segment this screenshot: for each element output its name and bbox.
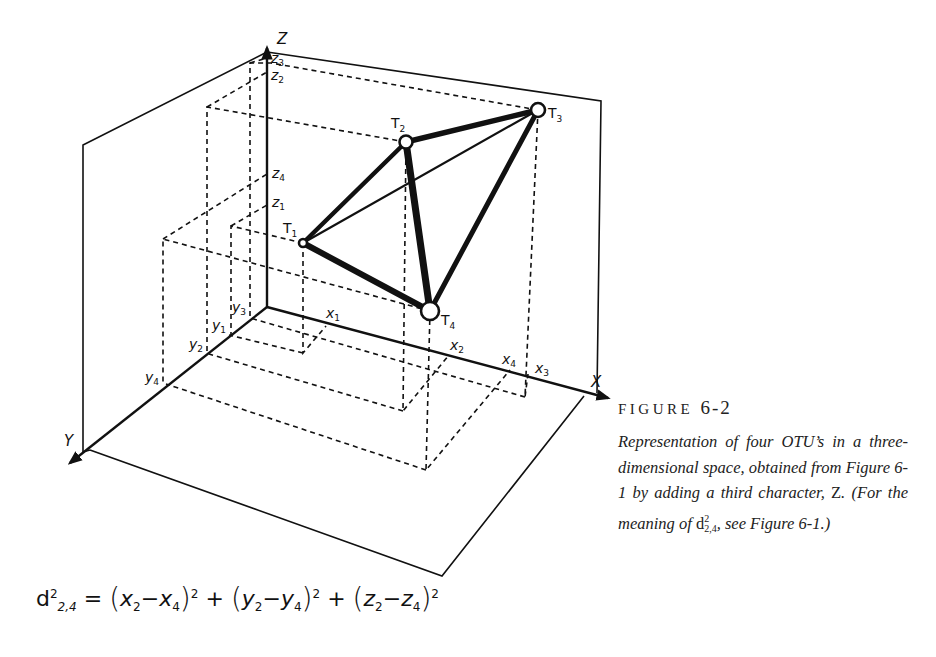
figure-description: Representation of four OTU’s in a three-… xyxy=(618,429,908,542)
distance-formula: d22,4 = (x2−x4)2 + (y2−y4)2 + (z2−z4)2 xyxy=(36,582,439,615)
formula-plus: + xyxy=(327,586,345,611)
formula-equals: = xyxy=(84,586,102,611)
axis-labels: Z X Y xyxy=(64,30,602,450)
z-ticks: z3 z2 z4 z1 xyxy=(270,50,285,212)
tick-y4: y4 xyxy=(144,369,159,387)
formula-term-z: (z2−z4)2 xyxy=(353,586,439,611)
formula-lhs: d22,4 xyxy=(36,586,77,611)
label-t3: T3 xyxy=(547,105,562,124)
node-t3 xyxy=(531,103,545,117)
z-axis-label: Z xyxy=(276,30,288,48)
tick-x1: x1 xyxy=(325,305,340,323)
tick-z2: z2 xyxy=(270,67,284,85)
tick-y2: y2 xyxy=(188,336,203,354)
otu-edges xyxy=(303,110,538,311)
edge-t2-t3 xyxy=(406,110,538,142)
tick-x3: x3 xyxy=(534,360,549,378)
label-t2: T2 xyxy=(390,115,405,134)
formula-term-x: (x2−x4)2 xyxy=(109,586,198,611)
xy-plane xyxy=(90,396,584,576)
tick-z4: z4 xyxy=(271,165,285,183)
x-axis xyxy=(267,307,608,398)
tick-z3: z3 xyxy=(270,50,284,68)
formula-term-y: (y2−y4)2 xyxy=(231,586,320,611)
figure-caption: FIGURE 6-2 Representation of four OTU’s … xyxy=(618,397,908,542)
tick-y3: y3 xyxy=(231,299,246,317)
otu-3d-diagram: T1 T2 T3 T4 Z X Y z3 z2 z4 z1 y3 y1 y2 y… xyxy=(0,0,936,657)
label-t1: T1 xyxy=(282,220,297,239)
formula-plus: + xyxy=(205,586,223,611)
projection-lines xyxy=(163,58,538,470)
edge-t1-t4 xyxy=(303,243,430,311)
figure-title: FIGURE 6-2 xyxy=(618,397,908,419)
tick-x2: x2 xyxy=(449,337,464,355)
label-t4: T4 xyxy=(440,312,456,331)
y-ticks: y3 y1 y2 y4 xyxy=(144,299,246,387)
x-axis-label: X xyxy=(590,373,602,391)
xz-plane xyxy=(267,52,601,393)
node-t1 xyxy=(299,239,307,247)
edge-t2-t4 xyxy=(406,142,430,311)
tick-x4: x4 xyxy=(501,351,516,369)
yz-plane xyxy=(83,52,267,452)
tick-z1: z1 xyxy=(271,194,285,212)
node-t2 xyxy=(400,136,413,149)
tick-y1: y1 xyxy=(211,317,226,335)
node-t4 xyxy=(421,302,439,320)
y-axis-label: Y xyxy=(64,432,75,450)
